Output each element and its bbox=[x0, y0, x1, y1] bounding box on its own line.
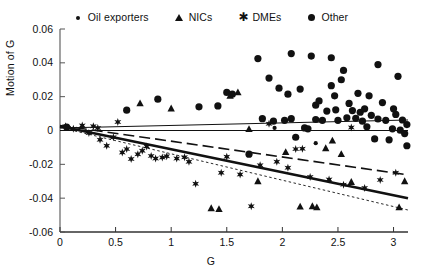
trend-line-dotted-thin bbox=[60, 127, 408, 210]
point-large-dot bbox=[214, 102, 221, 109]
x-tick-label: 0 bbox=[57, 236, 63, 248]
point-star bbox=[248, 202, 255, 210]
point-star bbox=[299, 145, 306, 153]
point-large-dot bbox=[390, 105, 397, 112]
point-large-dot bbox=[403, 121, 410, 128]
point-triangle bbox=[215, 205, 222, 212]
point-triangle bbox=[401, 177, 408, 184]
point-star bbox=[237, 170, 244, 178]
point-triangle bbox=[136, 99, 143, 106]
y-tick-label: 0.04 bbox=[33, 56, 54, 68]
trend-line-dashed bbox=[60, 125, 408, 174]
point-large-dot bbox=[331, 92, 338, 99]
point-large-dot bbox=[363, 123, 370, 130]
point-large-dot bbox=[340, 67, 347, 74]
point-large-dot bbox=[401, 130, 408, 137]
point-large-dot bbox=[270, 118, 277, 125]
point-large-dot bbox=[374, 115, 381, 122]
point-large-dot bbox=[389, 125, 396, 132]
point-large-dot bbox=[361, 105, 368, 112]
point-large-dot bbox=[343, 114, 350, 121]
point-star bbox=[152, 154, 159, 162]
point-star bbox=[114, 118, 121, 126]
point-large-dot bbox=[195, 103, 202, 110]
point-star bbox=[273, 158, 280, 166]
point-star bbox=[192, 180, 199, 188]
scatter-plot-figure: Oil exporters NICs ✱ DMEs Other Motion o… bbox=[0, 0, 422, 275]
x-tick-label: 3 bbox=[391, 236, 397, 248]
trend-lines bbox=[60, 120, 408, 210]
point-large-dot bbox=[254, 55, 261, 62]
point-large-dot bbox=[312, 116, 319, 123]
point-star bbox=[284, 164, 291, 172]
y-tick-label: -0.02 bbox=[29, 158, 53, 170]
point-star bbox=[218, 169, 225, 177]
point-star bbox=[377, 176, 384, 184]
point-star bbox=[128, 155, 135, 163]
point-large-dot bbox=[374, 61, 381, 68]
point-large-dot bbox=[315, 97, 322, 104]
y-tick-label: 0.02 bbox=[33, 90, 54, 102]
x-tick-label: 2 bbox=[279, 236, 285, 248]
point-large-dot bbox=[349, 107, 356, 114]
point-small-dot bbox=[314, 141, 318, 145]
point-large-dot bbox=[292, 134, 299, 141]
point-triangle bbox=[329, 137, 336, 144]
point-triangle bbox=[296, 203, 303, 210]
x-tick-label: 1.5 bbox=[219, 236, 234, 248]
point-large-dot bbox=[229, 91, 236, 98]
point-large-dot bbox=[382, 117, 389, 124]
point-large-dot bbox=[352, 115, 359, 122]
point-large-dot bbox=[284, 91, 291, 98]
point-large-dot bbox=[275, 85, 282, 92]
point-large-dot bbox=[288, 50, 295, 57]
x-tick-label: 2.5 bbox=[331, 236, 346, 248]
point-large-dot bbox=[304, 125, 311, 132]
point-large-dot bbox=[281, 117, 288, 124]
point-large-dot bbox=[63, 124, 70, 131]
point-large-dot bbox=[245, 151, 252, 158]
y-tick-label: -0.04 bbox=[29, 192, 53, 204]
point-large-dot bbox=[338, 76, 345, 83]
point-large-dot bbox=[288, 115, 295, 122]
point-large-dot bbox=[368, 112, 375, 119]
point-large-dot bbox=[334, 117, 341, 124]
y-tick-label: 0 bbox=[47, 124, 53, 136]
point-large-dot bbox=[385, 136, 392, 143]
point-large-dot bbox=[394, 73, 401, 80]
point-large-dot bbox=[328, 82, 335, 89]
point-large-dot bbox=[319, 117, 326, 124]
point-large-dot bbox=[359, 118, 366, 125]
point-triangle bbox=[208, 204, 215, 211]
point-star bbox=[292, 145, 299, 153]
point-large-dot bbox=[308, 52, 315, 59]
x-tick-label: 0.5 bbox=[108, 236, 123, 248]
y-tick-label: 0.06 bbox=[33, 23, 54, 35]
x-tick-label: 1 bbox=[168, 236, 174, 248]
point-triangle bbox=[282, 148, 289, 155]
point-large-dot bbox=[297, 85, 304, 92]
point-large-dot bbox=[379, 99, 386, 106]
point-large-dot bbox=[371, 135, 378, 142]
plot-canvas: 00.511.522.53-0.06-0.04-0.0200.020.040.0… bbox=[0, 0, 422, 275]
point-large-dot bbox=[332, 106, 339, 113]
point-star bbox=[103, 142, 110, 150]
point-large-dot bbox=[259, 115, 266, 122]
series-dmes bbox=[62, 118, 399, 210]
point-triangle bbox=[254, 177, 261, 184]
point-large-dot bbox=[345, 100, 352, 107]
series-other bbox=[63, 50, 410, 158]
y-tick-label: -0.06 bbox=[29, 226, 53, 238]
point-triangle bbox=[322, 144, 329, 151]
point-triangle bbox=[348, 178, 355, 185]
point-triangle bbox=[338, 150, 345, 157]
point-large-dot bbox=[328, 54, 335, 61]
point-large-dot bbox=[365, 92, 372, 99]
point-large-dot bbox=[154, 96, 161, 103]
point-large-dot bbox=[123, 107, 130, 114]
point-large-dot bbox=[354, 90, 361, 97]
point-small-dot bbox=[272, 126, 276, 130]
point-star bbox=[97, 136, 104, 144]
point-triangle bbox=[168, 105, 175, 112]
axis-tick-labels: 00.511.522.53-0.06-0.04-0.0200.020.040.0… bbox=[29, 23, 397, 248]
